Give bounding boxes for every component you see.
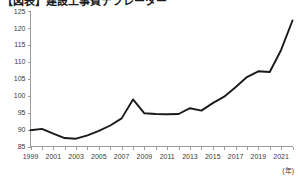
x-tick-label: 2007 bbox=[114, 153, 130, 160]
x-tick-label: 2011 bbox=[160, 153, 175, 160]
x-tick-label: 2019 bbox=[251, 153, 267, 160]
x-tick-label: 2013 bbox=[182, 153, 198, 160]
x-axis-unit-label: (年) bbox=[282, 166, 294, 175]
line-chart-plot: 859095100105110115120125 199920012003200… bbox=[0, 0, 298, 176]
y-axis-group: 859095100105110115120125 bbox=[14, 8, 31, 151]
y-tick-label: 85 bbox=[18, 143, 26, 150]
x-tick-label: 2005 bbox=[91, 153, 107, 160]
x-tick-label: 2001 bbox=[45, 153, 61, 160]
y-tick-label: 120 bbox=[14, 25, 26, 32]
y-tick-label: 115 bbox=[14, 41, 25, 48]
x-axis-group: 1999200120032005200720092011201320152017… bbox=[23, 147, 294, 160]
y-tick-label: 90 bbox=[18, 126, 26, 133]
x-tick-label: 2017 bbox=[228, 153, 244, 160]
x-tick-label: 2009 bbox=[137, 153, 153, 160]
y-tick-group: 859095100105110115120125 bbox=[14, 8, 31, 151]
y-tick-label: 125 bbox=[14, 8, 26, 15]
x-tick-label: 2003 bbox=[68, 153, 84, 160]
y-tick-label: 105 bbox=[14, 75, 26, 82]
x-tick-label: 2015 bbox=[205, 153, 221, 160]
data-series-line bbox=[31, 20, 293, 138]
x-tick-label: 1999 bbox=[23, 153, 39, 160]
x-tick-label: 2021 bbox=[273, 153, 289, 160]
y-tick-label: 110 bbox=[14, 58, 25, 65]
chart-container: 【図表】建設工事費デフレーター 859095100105110115120125… bbox=[0, 0, 298, 176]
y-tick-label: 95 bbox=[18, 109, 26, 116]
y-tick-label: 100 bbox=[14, 92, 26, 99]
x-tick-group: 1999200120032005200720092011201320152017… bbox=[23, 147, 294, 160]
